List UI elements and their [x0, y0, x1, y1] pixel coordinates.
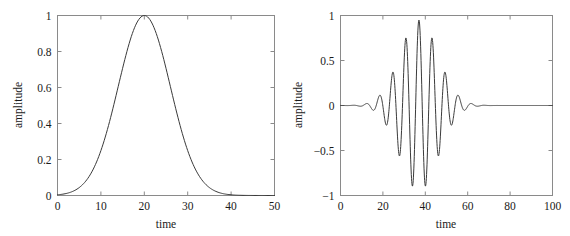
x-tick-label: 10	[95, 200, 107, 212]
right-panel: 020406080100−1−0.500.51 time amplitude	[285, 0, 570, 236]
x-tick-label: 50	[269, 200, 281, 212]
left-xaxis-label: time	[156, 218, 176, 230]
y-tick-label: 0	[329, 100, 335, 112]
x-tick-label: 60	[462, 200, 474, 212]
x-tick-label: 0	[338, 200, 344, 212]
y-tick-label: 0	[46, 190, 52, 202]
y-tick-label: 1	[329, 10, 335, 22]
x-tick-label: 20	[377, 200, 389, 212]
x-tick-label: 40	[420, 200, 432, 212]
y-tick-label: −1	[322, 190, 334, 202]
left-panel: 0102030405000.20.40.60.81 time amplitude	[0, 0, 285, 236]
y-tick-label: 1	[46, 10, 52, 22]
right-yaxis-label: amplitude	[292, 82, 305, 128]
y-tick-label: 0.6	[37, 82, 52, 94]
x-tick-label: 100	[544, 200, 562, 212]
right-xaxis-label: time	[436, 218, 456, 230]
left-yaxis-label: amplitude	[12, 82, 25, 128]
x-tick-label: 80	[504, 200, 516, 212]
x-tick-label: 20	[139, 200, 151, 212]
figure-container: 0102030405000.20.40.60.81 time amplitude…	[0, 0, 570, 236]
gaussian-envelope-plot: 0102030405000.20.40.60.81 time amplitude	[0, 0, 285, 236]
x-tick-label: 0	[55, 200, 61, 212]
gabor-wavelet-plot: 020406080100−1−0.500.51 time amplitude	[285, 0, 570, 236]
x-tick-label: 40	[225, 200, 237, 212]
y-tick-label: 0.8	[37, 46, 52, 58]
y-tick-label: 0.5	[320, 55, 335, 67]
y-tick-label: −0.5	[314, 145, 335, 157]
y-tick-label: 0.4	[37, 118, 52, 130]
y-tick-label: 0.2	[37, 154, 52, 166]
x-tick-label: 30	[182, 200, 194, 212]
